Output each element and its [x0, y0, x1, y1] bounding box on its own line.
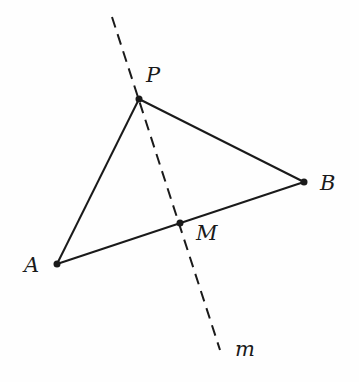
- point-m-midpoint: [177, 220, 184, 227]
- label-b: B: [319, 171, 335, 195]
- label-m-midpoint: M: [195, 221, 218, 245]
- line-m-dashed: [112, 17, 220, 350]
- label-a: A: [22, 253, 39, 277]
- label-p: P: [145, 63, 161, 87]
- label-line-m: m: [235, 337, 255, 361]
- diagram-svg: P B A M m: [0, 0, 359, 382]
- segment-pb: [139, 99, 304, 182]
- geometry-diagram: P B A M m: [0, 0, 359, 382]
- segment-ap: [57, 99, 139, 264]
- point-b: [301, 179, 308, 186]
- point-a: [54, 261, 61, 268]
- point-p: [136, 96, 143, 103]
